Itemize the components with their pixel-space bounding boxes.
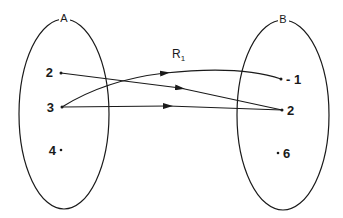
- set-a-element-4: 4: [49, 143, 57, 158]
- arrow-2-to-2-first: [61, 73, 180, 88]
- arrow-3-to-2-first: [62, 106, 168, 107]
- point-b-2: [281, 109, 284, 112]
- arrow-3-to-minus-1-second: [165, 70, 281, 79]
- arrow-diagram: A 2 3 4 B - 1 2 6 R1: [0, 0, 343, 218]
- set-a-ellipse: [19, 19, 109, 209]
- set-a: A 2 3 4: [19, 12, 109, 209]
- set-b-element-2: 2: [287, 103, 294, 118]
- set-b-label: B: [279, 13, 286, 25]
- set-b: B - 1 2 6: [237, 13, 329, 210]
- set-b-element-minus-1: - 1: [286, 72, 301, 87]
- set-b-ellipse: [237, 20, 329, 210]
- arrow-3-to-minus-1-first: [62, 73, 165, 107]
- mapping-arrows: [61, 70, 282, 110]
- point-a-4: [60, 149, 63, 152]
- set-b-element-6: 6: [283, 146, 290, 161]
- set-a-label: A: [60, 12, 68, 24]
- set-a-element-2: 2: [46, 65, 53, 80]
- point-b-6: [277, 152, 280, 155]
- set-a-element-3: 3: [47, 100, 54, 115]
- relation-label: R1: [172, 47, 186, 63]
